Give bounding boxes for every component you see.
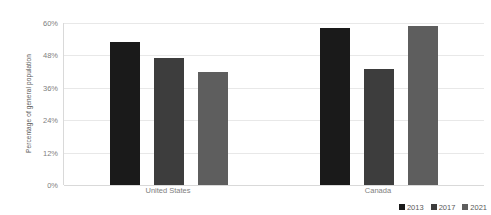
bar: [154, 58, 184, 185]
legend-label: 2021: [470, 203, 487, 212]
plot-area: [63, 23, 484, 185]
y-tick-label: 0%: [30, 181, 58, 190]
legend-swatch-icon: [462, 204, 468, 210]
bar-chart: Percentage of general population 0%12%24…: [0, 0, 491, 215]
bar: [408, 26, 438, 185]
y-tick-label: 48%: [30, 51, 58, 60]
legend-item[interactable]: 2021: [462, 203, 487, 212]
bar: [320, 28, 350, 185]
x-tick-label: United States: [145, 186, 190, 195]
y-axis-tick-labels: 0%12%24%36%48%60%: [30, 0, 58, 215]
legend-item[interactable]: 2013: [399, 203, 424, 212]
legend-swatch-icon: [399, 204, 405, 210]
chart-legend: 201320172021: [399, 201, 487, 213]
x-axis-category-labels: United StatesCanada: [63, 186, 483, 200]
legend-label: 2017: [439, 203, 456, 212]
y-tick-label: 12%: [30, 148, 58, 157]
y-tick-label: 60%: [30, 19, 58, 28]
bar: [198, 72, 228, 185]
legend-label: 2013: [407, 203, 424, 212]
bar: [110, 42, 140, 185]
legend-item[interactable]: 2017: [431, 203, 456, 212]
y-tick-label: 36%: [30, 83, 58, 92]
y-tick-label: 24%: [30, 116, 58, 125]
bar: [364, 69, 394, 185]
x-tick-label: Canada: [365, 186, 391, 195]
legend-swatch-icon: [431, 204, 437, 210]
bars-layer: [64, 23, 484, 185]
